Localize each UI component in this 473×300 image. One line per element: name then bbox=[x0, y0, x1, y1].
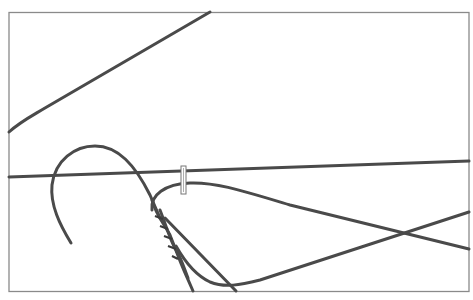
frame bbox=[9, 13, 469, 292]
wire-hangers-scene bbox=[0, 0, 473, 300]
clip bbox=[181, 166, 186, 194]
